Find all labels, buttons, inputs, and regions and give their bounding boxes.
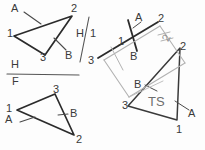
aux-fold-box-outline [104, 26, 185, 97]
fold-h1-label-1: 1 [90, 28, 96, 39]
front-view-label-3: 3 [53, 84, 59, 95]
construction-lines [0, 0, 205, 150]
ts-label-b: B [134, 79, 141, 90]
fold-hf-label-f: F [12, 76, 19, 87]
ts-label-3: 3 [122, 100, 128, 111]
aux-view-label-2: 2 [158, 13, 164, 24]
aux-view-label-b: B [130, 51, 137, 62]
top-view-label-b: B [65, 50, 72, 61]
top-view-label-1: 1 [7, 28, 13, 39]
ts-label-a: A [188, 108, 195, 119]
aux-view-label-a: A [135, 12, 142, 23]
front-view-label-2: 2 [76, 134, 82, 145]
top-view-label-3: 3 [40, 52, 46, 63]
ts-label-2: 2 [180, 41, 186, 52]
front-view-label-b: B [70, 108, 77, 119]
true-size-annotation: TS [148, 95, 165, 108]
aux-view-label-1: 1 [118, 36, 124, 47]
fold-hf-label-h: H [11, 59, 19, 70]
ts-label-1: 1 [176, 124, 182, 135]
top-view-label-2: 2 [71, 3, 77, 14]
fold-h1-label-h: H [76, 28, 84, 39]
aux-view-label-3: 3 [88, 55, 94, 66]
sketch-canvas: A 1 2 3 B H 1 H F 1 A 3 B 2 3 2 A B 1 2 … [0, 0, 205, 150]
top-view-label-a: A [11, 3, 18, 14]
front-view-label-a: A [5, 114, 12, 125]
